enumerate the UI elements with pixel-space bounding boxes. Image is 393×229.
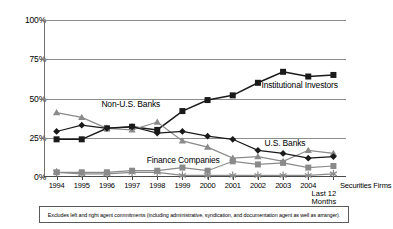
x-axis-tick <box>208 177 209 180</box>
x-axis-tick <box>82 177 83 180</box>
data-point-square <box>255 161 261 167</box>
x-axis-tick <box>157 177 158 180</box>
series-label: Non-U.S. Banks <box>101 100 160 109</box>
data-point-filled-square <box>54 136 60 142</box>
data-point-filled-square <box>230 92 236 98</box>
data-point-diamond <box>280 150 287 157</box>
data-point-square <box>179 165 185 171</box>
data-point-square <box>330 163 336 169</box>
data-point-diamond <box>78 122 85 129</box>
series-label: Finance Companies <box>147 156 220 165</box>
footnote-text: Excludes left and right agent commitment… <box>48 212 340 218</box>
series-label: U.S. Banks <box>264 139 305 148</box>
data-point-diamond <box>53 128 60 135</box>
chart-container: 0%25%50%75%100% 199419951996199719981999… <box>0 0 393 229</box>
x-axis-tick <box>283 177 284 180</box>
plot-area <box>44 20 346 177</box>
data-point-filled-square <box>255 80 261 86</box>
x-axis-tick <box>132 177 133 180</box>
series-label: Securities Firms <box>340 181 391 190</box>
series-label: Institutional Investors <box>261 81 337 90</box>
y-axis-tick <box>40 177 44 178</box>
data-point-filled-square <box>330 72 336 78</box>
x-axis-tick <box>107 177 108 180</box>
data-point-square <box>230 158 236 164</box>
data-point-square <box>305 165 311 171</box>
data-point-filled-square <box>179 108 185 114</box>
x-axis-tick <box>308 177 309 180</box>
data-point-filled-square <box>305 74 311 80</box>
data-point-diamond <box>179 128 186 135</box>
data-point-filled-square <box>280 69 286 75</box>
x-axis-tick <box>258 177 259 180</box>
data-point-triangle <box>305 147 312 153</box>
x-axis-tick <box>182 177 183 180</box>
series-plot <box>44 20 346 177</box>
data-point-triangle <box>154 118 161 124</box>
data-point-square <box>280 160 286 166</box>
data-point-filled-square <box>79 136 85 142</box>
x-axis-tick <box>333 177 334 180</box>
data-point-diamond <box>305 155 312 162</box>
series-line <box>57 113 334 162</box>
data-point-triangle <box>179 137 186 143</box>
data-point-triangle <box>53 109 60 115</box>
x-axis-tick <box>233 177 234 180</box>
x-axis-tick <box>57 177 58 180</box>
data-point-diamond <box>255 147 262 154</box>
data-point-diamond <box>204 133 211 140</box>
data-point-triangle <box>254 153 261 159</box>
footnote-box: Excludes left and right agent commitment… <box>39 206 349 223</box>
data-point-filled-square <box>205 97 211 103</box>
data-point-diamond <box>229 136 236 143</box>
